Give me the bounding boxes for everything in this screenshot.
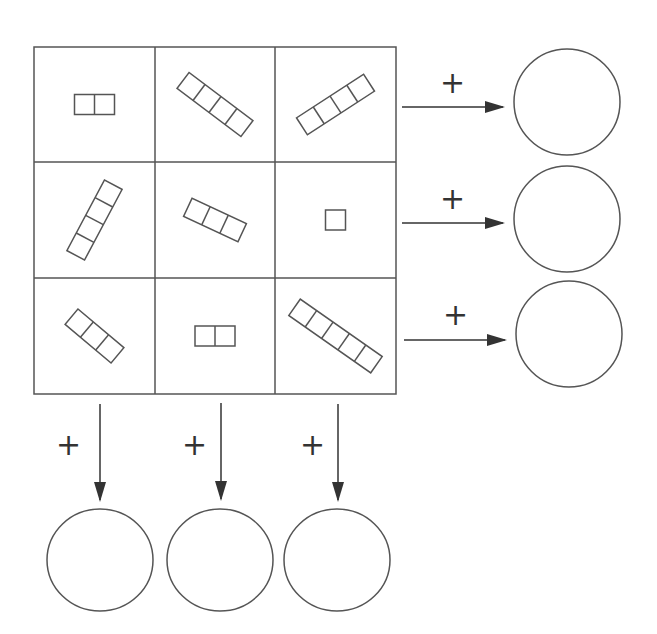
square-divider [220,215,228,233]
cell-r2c2-squares [184,198,247,241]
square-divider [354,345,365,361]
square-strip [65,309,124,363]
cell-r2c1-squares [67,180,122,260]
square-divider [86,215,104,224]
square-divider [202,207,210,225]
square-divider [330,96,341,113]
answer-circle-row-1[interactable] [514,49,620,155]
plus-label-col-2: + [182,430,207,460]
arrowhead-icon [94,482,106,502]
cell-r3c1-squares [65,309,124,363]
cell-r1c1-squares [75,95,115,115]
plus-label-row-2: + [440,184,465,214]
square-divider [347,85,358,102]
arrowhead-icon [485,101,505,113]
square-divider [95,198,113,207]
answer-circle-row-3[interactable] [516,281,622,387]
answer-circle-col-1[interactable] [47,509,153,611]
cell-r3c3-squares [289,299,382,373]
square-divider [338,334,349,350]
cell-r3c2-squares [195,326,235,346]
answer-circle-col-3[interactable] [284,509,390,611]
square-divider [96,335,109,350]
puzzle-diagram [0,0,657,634]
plus-label-col-3: + [300,430,325,460]
square-divider [225,109,237,125]
arrowhead-icon [487,334,507,346]
arrowhead-icon [215,481,227,501]
answer-circle-row-2[interactable] [514,166,620,272]
arrowhead-icon [485,217,505,229]
square-divider [305,311,316,327]
square-divider [80,322,93,337]
plus-label-row-1: + [440,68,465,98]
arrowhead-icon [332,482,344,502]
plus-label-row-3: + [443,300,468,330]
square-strip [289,299,382,373]
cell-r1c3-squares [297,74,375,134]
answer-circle-col-2[interactable] [167,509,273,611]
square-divider [76,233,94,242]
square-divider [313,107,324,124]
square-divider [209,97,221,113]
square-divider [193,84,205,100]
cell-r2c3-squares [326,210,346,230]
square-strip [184,198,247,241]
square-strip [326,210,346,230]
cell-r1c2-squares [177,72,253,136]
square-divider [322,322,333,338]
cell-shapes [65,72,382,372]
plus-label-col-1: + [56,430,81,460]
